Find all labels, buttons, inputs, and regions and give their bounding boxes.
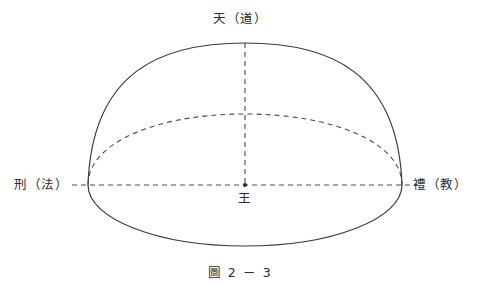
label-heaven-dao: 天（道） [0, 12, 480, 26]
figure-caption: 圖 2 － 3 [0, 262, 480, 281]
figure-container: 天（道） 刑（法） 禮（教） 王 圖 2 － 3 [0, 0, 480, 304]
hemisphere-diagram [0, 0, 480, 304]
label-punishment-law: 刑（法） [14, 178, 68, 192]
label-king: 王 [0, 192, 480, 206]
label-rite-teaching: 禮（教） [413, 178, 467, 192]
center-point-marker [243, 183, 247, 187]
